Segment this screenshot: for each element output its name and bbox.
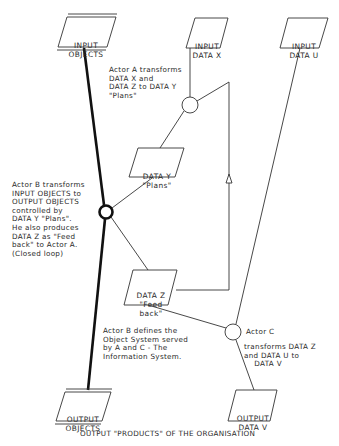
actor-c-label: Actor C	[246, 328, 274, 337]
actor-b-description: Actor B transforms INPUT OBJECTS to OUTP…	[12, 181, 85, 258]
input-objects-label: INPUTOBJECTS	[63, 23, 109, 68]
input-data-x-label: INPUTDATA X	[188, 24, 226, 69]
input-data-u-label: INPUTDATA U	[283, 24, 325, 69]
actor-a-description: Actor A transforms DATA X and DATA Z to …	[109, 66, 182, 100]
actor-c-description: transforms DATA Z and DATA U to DATA V	[244, 343, 316, 369]
link-actorb-dataz	[111, 217, 148, 270]
link-actora-datay	[160, 111, 184, 148]
data-y-label: DATA Y"Plans"	[133, 154, 181, 199]
actor-b-note: Actor B defines the Object System served…	[103, 327, 188, 361]
actor-c-circle	[225, 324, 241, 340]
feedback-loop-line	[176, 82, 229, 290]
link-datau-actorc	[236, 48, 300, 324]
actor-b-circle	[100, 206, 113, 219]
actor-a-circle	[182, 97, 198, 113]
object-flow-line	[84, 48, 105, 390]
data-z-label: DATA Z"Feedback"	[127, 273, 175, 327]
feedback-arrow-icon	[226, 174, 232, 183]
diagram-caption: OUTPUT "PRODUCTS" OF THE ORGANISATION	[80, 430, 255, 439]
